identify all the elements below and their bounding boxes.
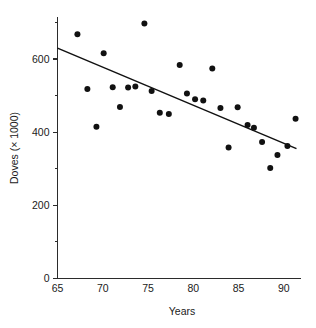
data-point	[274, 152, 280, 158]
x-tick-label: 80	[187, 282, 199, 294]
y-tick-label: 600	[32, 53, 50, 65]
data-points-group	[74, 21, 298, 171]
y-tick-label: 200	[32, 199, 50, 211]
data-point	[226, 145, 232, 151]
data-point	[217, 105, 223, 111]
trend-line	[58, 48, 297, 149]
data-point	[200, 97, 206, 103]
data-point	[132, 83, 138, 89]
data-point	[267, 165, 273, 171]
x-axis-tick-labels: 657075808590	[52, 282, 290, 294]
data-point	[177, 62, 183, 68]
data-point	[117, 104, 123, 110]
y-tick-label: 0	[44, 272, 50, 284]
data-point	[192, 96, 198, 102]
data-point	[235, 104, 241, 110]
data-point	[101, 50, 107, 56]
data-point	[110, 84, 116, 90]
data-point	[74, 31, 80, 37]
data-point	[166, 111, 172, 117]
y-axis-title: Doves (× 1000)	[8, 112, 20, 184]
x-tick-label: 65	[52, 282, 64, 294]
x-tick-label: 70	[97, 282, 109, 294]
data-point	[84, 86, 90, 92]
x-tick-label: 85	[233, 282, 245, 294]
scatter-plot: 0200400600 657075808590 Years Doves (× 1…	[0, 0, 316, 328]
chart-figure: 0200400600 657075808590 Years Doves (× 1…	[0, 0, 316, 328]
data-point	[184, 90, 190, 96]
data-point	[293, 116, 299, 122]
data-point	[93, 124, 99, 130]
y-tick-label: 400	[32, 126, 50, 138]
data-point	[125, 85, 131, 91]
x-axis-title: Years	[169, 305, 195, 317]
data-point	[259, 139, 265, 145]
data-point	[157, 110, 163, 116]
x-tick-label: 90	[278, 282, 290, 294]
axes-group	[58, 17, 302, 279]
data-point	[141, 21, 147, 27]
x-tick-label: 75	[142, 282, 154, 294]
data-point	[209, 66, 215, 72]
y-axis-tick-labels: 0200400600	[32, 53, 50, 284]
